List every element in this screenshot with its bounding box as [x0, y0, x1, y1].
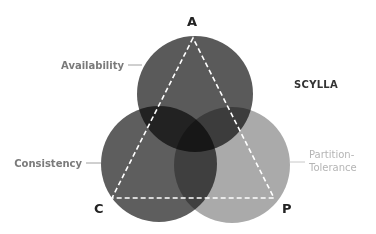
availability-label: Availability [61, 60, 124, 71]
brand-logo-text: SCYLLA [294, 79, 338, 90]
vertex-label-c: C [94, 201, 104, 216]
partition-tolerance-circle [174, 107, 290, 223]
partition-label-line2: Tolerance [308, 162, 357, 173]
vertex-label-a: A [187, 14, 197, 29]
consistency-label: Consistency [14, 158, 82, 169]
cap-venn-diagram: A C P Availability Consistency Partition… [0, 0, 376, 234]
venn-circles [101, 36, 290, 223]
vertex-label-p: P [282, 201, 292, 216]
partition-label-line1: Partition- [309, 149, 355, 160]
